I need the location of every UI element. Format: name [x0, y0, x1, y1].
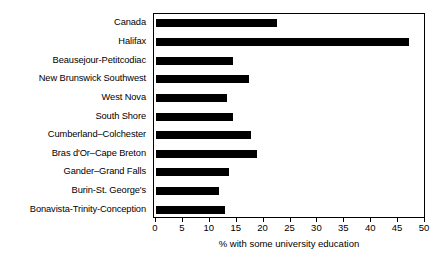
bar	[156, 75, 249, 83]
tick-label: 5	[179, 222, 184, 234]
bar	[156, 206, 225, 214]
category-label: Cumberland–Colchester	[48, 129, 146, 139]
category-label: Bras d'Or–Cape Breton	[52, 148, 146, 158]
bar	[156, 113, 233, 121]
category-label: Bonavista-Trinity-Conception	[30, 204, 146, 214]
tick-label: 40	[365, 222, 376, 234]
tick-label: 15	[230, 222, 241, 234]
category-axis-labels: CanadaHalifaxBeausejour-PetitcodiacNew B…	[0, 13, 150, 218]
bar	[156, 187, 219, 195]
bars-container	[154, 14, 424, 217]
category-label: Halifax	[118, 36, 146, 46]
tick-label: 20	[257, 222, 268, 234]
bar	[156, 94, 227, 102]
tick-label: 45	[392, 222, 403, 234]
tick-label: 0	[152, 222, 157, 234]
category-label: West Nova	[102, 92, 146, 102]
x-axis-tick-labels: 05101520253035404550	[153, 222, 425, 236]
tick-label: 35	[338, 222, 349, 234]
bar	[156, 168, 229, 176]
category-label: Gander–Grand Falls	[64, 166, 146, 176]
bar-chart: CanadaHalifaxBeausejour-PetitcodiacNew B…	[0, 0, 443, 266]
bar	[156, 57, 233, 65]
bar	[156, 38, 409, 46]
tick-label: 25	[284, 222, 295, 234]
bar	[156, 19, 277, 27]
plot-area	[153, 13, 425, 218]
category-label: Burin-St. George's	[72, 185, 146, 195]
category-label: Beausejour-Petitcodiac	[53, 55, 146, 65]
bar	[156, 150, 257, 158]
category-label: South Shore	[95, 111, 146, 121]
tick-label: 50	[419, 222, 430, 234]
tick-label: 10	[204, 222, 215, 234]
tick-label: 30	[311, 222, 322, 234]
x-axis-title: % with some university education	[153, 238, 425, 250]
category-label: Canada	[114, 17, 146, 27]
bar	[156, 131, 251, 139]
category-label: New Brunswick Southwest	[39, 73, 146, 83]
